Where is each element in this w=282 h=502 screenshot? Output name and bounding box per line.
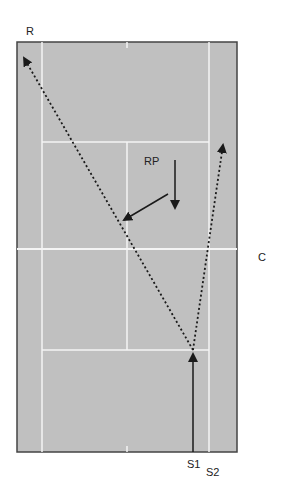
receiver-label: R	[26, 25, 34, 37]
tennis-court-diagram	[0, 0, 282, 502]
server2-label: S2	[206, 466, 219, 478]
receiver-partner-label: RP	[144, 155, 159, 167]
center-label: C	[258, 251, 266, 263]
server1-label: S1	[187, 458, 200, 470]
